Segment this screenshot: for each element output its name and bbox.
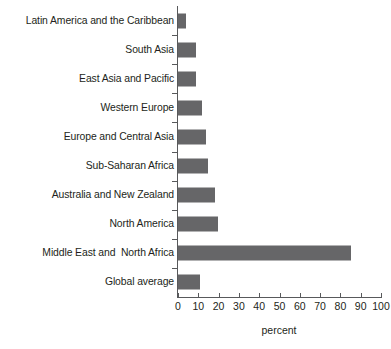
bar — [178, 100, 202, 115]
x-axis-tick-label: 60 — [294, 300, 306, 312]
x-axis-tick-label: 100 — [372, 300, 390, 312]
category-label: Western Europe — [101, 102, 175, 114]
chart-row: Latin America and the Caribbean — [0, 6, 391, 35]
bar-chart: Latin America and the CaribbeanSouth Asi… — [0, 0, 391, 349]
bar — [178, 71, 196, 86]
chart-row: Sub-Saharan Africa — [0, 152, 391, 181]
x-axis-tick-label: 90 — [355, 300, 367, 312]
chart-row: North America — [0, 210, 391, 239]
category-label: Sub-Saharan Africa — [86, 160, 174, 172]
bar — [178, 275, 200, 290]
category-label: Europe and Central Asia — [64, 131, 174, 143]
chart-row: Australia and New Zealand — [0, 181, 391, 210]
chart-row: South Asia — [0, 35, 391, 64]
bar — [178, 129, 206, 144]
x-axis-tick — [280, 293, 281, 298]
x-axis-tick-label: 10 — [192, 300, 204, 312]
y-axis-tick — [172, 210, 178, 211]
y-axis-tick — [172, 64, 178, 65]
y-axis-tick — [172, 35, 178, 36]
chart-row: Middle East and North Africa — [0, 239, 391, 268]
category-label: North America — [109, 218, 174, 230]
x-axis-tick — [361, 293, 362, 298]
x-axis-tick-label: 50 — [274, 300, 286, 312]
chart-row: Western Europe — [0, 93, 391, 122]
x-axis-tick — [239, 293, 240, 298]
category-label: South Asia — [125, 44, 174, 56]
chart-row: Europe and Central Asia — [0, 122, 391, 151]
x-axis-tick — [320, 293, 321, 298]
bar — [178, 188, 215, 203]
category-label: East Asia and Pacific — [79, 73, 174, 85]
x-axis-tick-label: 20 — [213, 300, 225, 312]
bar — [178, 159, 208, 174]
category-label: Middle East and North Africa — [42, 247, 174, 259]
bar — [178, 13, 186, 28]
category-label: Global average — [105, 276, 174, 288]
x-axis-tick — [219, 293, 220, 298]
bar — [178, 246, 351, 261]
bar — [178, 42, 196, 57]
x-axis-tick-label: 30 — [233, 300, 245, 312]
bar — [178, 217, 218, 232]
y-axis-tick — [172, 268, 178, 269]
x-axis-tick-label: 40 — [253, 300, 265, 312]
y-axis-tick — [172, 239, 178, 240]
chart-row: East Asia and Pacific — [0, 64, 391, 93]
x-axis-title: percent — [177, 324, 381, 336]
y-axis-tick — [172, 181, 178, 182]
chart-rows: Latin America and the CaribbeanSouth Asi… — [0, 0, 391, 297]
x-axis-tick-label: 70 — [314, 300, 326, 312]
category-label: Australia and New Zealand — [52, 189, 174, 201]
x-axis-tick-label: 0 — [175, 300, 181, 312]
x-axis-tick — [198, 293, 199, 298]
x-axis-tick — [178, 293, 179, 298]
x-axis-tick — [381, 293, 382, 298]
x-axis-tick-label: 80 — [335, 300, 347, 312]
y-axis-tick — [172, 152, 178, 153]
y-axis-tick — [172, 93, 178, 94]
x-axis-tick — [340, 293, 341, 298]
x-axis-tick — [259, 293, 260, 298]
chart-row: Global average — [0, 268, 391, 297]
x-axis-tick — [300, 293, 301, 298]
y-axis-tick — [172, 122, 178, 123]
category-label: Latin America and the Caribbean — [26, 15, 174, 27]
